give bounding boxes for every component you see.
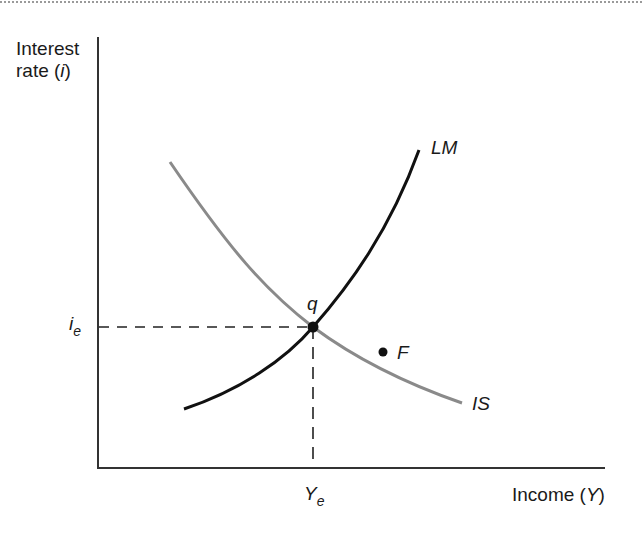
is-lm-diagram [0, 0, 642, 536]
point-q-label: q [307, 293, 318, 315]
y-label-prefix: rate ( [16, 60, 60, 81]
y-axis-label: Interest rate (i) [16, 38, 79, 82]
x-label-prefix: Income ( [512, 484, 586, 505]
ie-sub: e [73, 323, 81, 339]
x-axis-label: Income (Y) [512, 484, 605, 506]
ye-base: Y [304, 483, 317, 504]
y-label-suffix: ) [65, 60, 71, 81]
ie-label: ie [69, 313, 81, 336]
x-label-suffix: ) [599, 484, 605, 505]
lm-curve-label: LM [431, 137, 457, 159]
x-label-var: Y [586, 484, 599, 505]
is-curve [170, 162, 462, 403]
point-f-marker [379, 348, 388, 357]
y-axis-label-line1: Interest [16, 38, 79, 60]
ye-sub: e [317, 493, 325, 509]
point-q-marker [308, 322, 319, 333]
ye-label: Ye [304, 483, 324, 506]
is-curve-label: IS [472, 393, 490, 415]
point-f-label: F [397, 342, 409, 364]
y-axis-label-line2: rate (i) [16, 60, 79, 82]
